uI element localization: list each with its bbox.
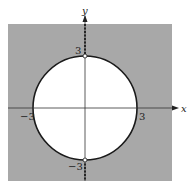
graph: y x 3 −3 −3 3 <box>0 0 193 190</box>
open-point-top <box>83 54 87 58</box>
x-axis-arrow-icon <box>172 106 179 111</box>
x-axis-label: x <box>181 103 187 114</box>
y-axis-label: y <box>81 5 88 16</box>
tick-label-y-top: 3 <box>75 45 81 56</box>
y-axis-arrow-icon <box>83 15 88 22</box>
open-point-bottom <box>83 158 87 162</box>
tick-label-y-bottom: −3 <box>68 161 83 172</box>
tick-label-x-right: 3 <box>139 111 145 122</box>
tick-label-x-left: −3 <box>20 111 35 122</box>
